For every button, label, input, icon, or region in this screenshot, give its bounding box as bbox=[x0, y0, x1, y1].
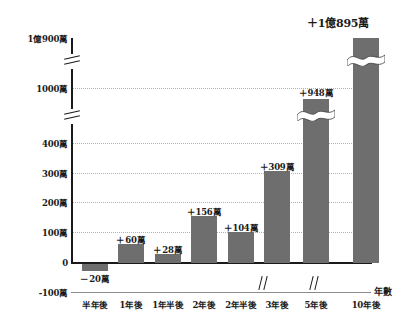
y-tick-label-5: 400萬 bbox=[42, 137, 68, 149]
bar-label-4: ＋104萬 bbox=[224, 221, 259, 233]
x-tick-label-2: 1年半後 bbox=[152, 298, 184, 310]
x-tick-label-6: 5年後 bbox=[304, 298, 327, 310]
y-tick-label-3: 200萬 bbox=[42, 196, 68, 208]
bar-3 bbox=[191, 216, 217, 263]
y-axis-line bbox=[71, 38, 73, 264]
bar-label-2: ＋28萬 bbox=[153, 243, 182, 255]
bar-label-5: ＋309萬 bbox=[260, 160, 295, 172]
x-axis-break-2-icon bbox=[309, 276, 321, 290]
y-tick-label-1: 0 bbox=[62, 258, 68, 268]
bar-label-6: ＋948萬 bbox=[299, 86, 334, 98]
x-tick-label-4: 2年半後 bbox=[225, 298, 257, 310]
y-tick-label-0: -100萬 bbox=[39, 286, 68, 298]
bar-6 bbox=[303, 99, 329, 263]
bar-label-0: －20萬 bbox=[80, 272, 109, 284]
bar-1 bbox=[118, 244, 144, 263]
y-axis-break-upper-icon bbox=[64, 55, 80, 67]
bar-4 bbox=[228, 232, 254, 263]
y-axis-break-lower-icon bbox=[64, 110, 80, 122]
x-axis-title: 年數 bbox=[374, 285, 392, 298]
x-tick-label-3: 2年後 bbox=[192, 298, 215, 310]
x-tick-label-7: 10年後 bbox=[352, 298, 381, 310]
bar-label-3: ＋156萬 bbox=[187, 205, 222, 217]
y-tick-label-4: 300萬 bbox=[42, 167, 68, 179]
y-axis-labels: 1億900萬 1000萬 400萬 300萬 200萬 100萬 0 -100萬 bbox=[0, 0, 68, 325]
bar-7 bbox=[353, 38, 379, 263]
x-tick-label-0: 半年後 bbox=[82, 298, 108, 310]
bar-0 bbox=[82, 264, 108, 271]
bar-label-1: ＋60萬 bbox=[116, 233, 145, 245]
bar-label-7: ＋1億895萬 bbox=[307, 14, 369, 30]
y-tick-label-2: 100萬 bbox=[42, 226, 68, 238]
bar-5 bbox=[264, 171, 290, 263]
bar-chart: 1億900萬 1000萬 400萬 300萬 200萬 100萬 0 -100萬… bbox=[0, 0, 401, 325]
x-tick-label-5: 3年後 bbox=[265, 298, 288, 310]
bar-2 bbox=[155, 254, 181, 263]
x-axis-break-1-icon bbox=[258, 276, 270, 290]
x-tick-label-1: 1年後 bbox=[119, 298, 142, 310]
y-tick-label-7: 1億900萬 bbox=[28, 32, 68, 44]
y-tick-label-6: 1000萬 bbox=[36, 82, 68, 94]
x-axis-baseline bbox=[71, 292, 371, 293]
